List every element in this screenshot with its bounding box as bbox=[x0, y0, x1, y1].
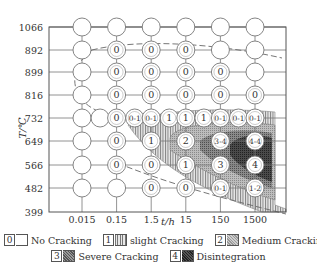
y-tick-label: 399 bbox=[25, 207, 43, 218]
legend-item-disintegration: 4Disintegration bbox=[170, 250, 266, 262]
grid-point: 1 bbox=[142, 132, 160, 150]
grid-point: 0-1 bbox=[211, 109, 229, 127]
svg-text:0: 0 bbox=[114, 89, 120, 100]
svg-text:0: 0 bbox=[148, 89, 154, 100]
legend-code: 2 bbox=[215, 234, 226, 246]
grid-point bbox=[73, 41, 91, 59]
legend-code: 4 bbox=[170, 250, 181, 262]
legend-code: 1 bbox=[103, 234, 114, 246]
grid-point bbox=[73, 156, 91, 174]
grid-point: 0 bbox=[177, 86, 195, 104]
svg-text:0-1: 0-1 bbox=[249, 114, 261, 123]
y-tick-label: 482 bbox=[25, 183, 43, 194]
x-tick-label: 150 bbox=[211, 214, 229, 225]
x-tick-label: 0.15 bbox=[106, 214, 127, 225]
legend-label: No Cracking bbox=[31, 235, 92, 246]
svg-text:0: 0 bbox=[114, 159, 120, 170]
legend-item-severe-cracking: 3Severe Cracking bbox=[51, 250, 158, 262]
grid-point bbox=[73, 18, 91, 36]
grid-point: 0 bbox=[108, 156, 126, 174]
svg-text:0: 0 bbox=[183, 44, 189, 55]
grid-point bbox=[246, 63, 264, 81]
svg-text:0: 0 bbox=[148, 66, 154, 77]
grid-point: 0 bbox=[108, 63, 126, 81]
x-tick-label: 0.015 bbox=[68, 214, 95, 225]
grid-point: 3 bbox=[211, 156, 229, 174]
legend-row-1: 0No Cracking 1slight Cracking 2Medium Cr… bbox=[0, 234, 317, 246]
legend-swatch bbox=[115, 234, 127, 246]
svg-text:0: 0 bbox=[114, 135, 120, 146]
y-axis-label: T/℃ bbox=[17, 117, 28, 138]
svg-text:0: 0 bbox=[217, 89, 223, 100]
grid-point bbox=[73, 63, 91, 81]
legend-label: Severe Cracking bbox=[78, 251, 158, 262]
svg-text:0-1: 0-1 bbox=[214, 184, 226, 193]
svg-text:1: 1 bbox=[183, 112, 189, 123]
legend-code: 0 bbox=[4, 234, 15, 246]
grid-point: 1 bbox=[177, 109, 195, 127]
grid-point: 4 bbox=[246, 156, 264, 174]
grid-point: 1-2 bbox=[246, 179, 264, 197]
legend-code: 3 bbox=[51, 250, 62, 262]
grid-point bbox=[142, 18, 160, 36]
grid-point: 0 bbox=[108, 132, 126, 150]
svg-text:0: 0 bbox=[183, 182, 189, 193]
legend-label: slight Cracking bbox=[130, 235, 204, 246]
svg-text:0-1: 0-1 bbox=[145, 114, 157, 123]
svg-text:0: 0 bbox=[114, 112, 120, 123]
legend-swatch bbox=[182, 250, 194, 262]
legend-item-slight-cracking: 1slight Cracking bbox=[103, 234, 204, 246]
grid-point bbox=[108, 179, 126, 197]
svg-text:1: 1 bbox=[166, 112, 172, 123]
legend-item-medium-cracking: 2Medium Cracking bbox=[215, 234, 317, 246]
grid-point: 0 bbox=[211, 86, 229, 104]
grid-point bbox=[91, 109, 109, 127]
grid-point: 0 bbox=[246, 86, 264, 104]
svg-text:0: 0 bbox=[183, 66, 189, 77]
legend-swatch bbox=[63, 250, 75, 262]
grid-point: 1 bbox=[177, 156, 195, 174]
grid-point: 0 bbox=[108, 41, 126, 59]
grid-point: 0 bbox=[142, 41, 160, 59]
svg-text:0: 0 bbox=[183, 89, 189, 100]
grid-point bbox=[73, 86, 91, 104]
svg-text:0-1: 0-1 bbox=[232, 114, 244, 123]
grid-point: 1 bbox=[160, 109, 178, 127]
grid-point: 0-1 bbox=[142, 109, 160, 127]
svg-text:0: 0 bbox=[148, 159, 154, 170]
x-tick-label: 15 bbox=[180, 214, 192, 225]
y-tick-label: 816 bbox=[25, 90, 43, 101]
grid-point: 0 bbox=[142, 86, 160, 104]
chart-plot: 00000000000000-10-11110-10-10-10123-44-4… bbox=[0, 0, 317, 230]
grid-point: 0 bbox=[142, 156, 160, 174]
svg-text:3: 3 bbox=[217, 159, 223, 170]
grid-point bbox=[246, 41, 264, 59]
svg-text:4: 4 bbox=[252, 159, 258, 170]
y-tick-label: 1066 bbox=[19, 22, 43, 33]
grid-point bbox=[177, 18, 195, 36]
y-tick-label: 566 bbox=[25, 160, 43, 171]
legend-swatch bbox=[16, 234, 28, 246]
svg-text:1: 1 bbox=[183, 159, 189, 170]
grid-point: 0 bbox=[177, 63, 195, 81]
grid-point: 0 bbox=[108, 86, 126, 104]
svg-text:2: 2 bbox=[183, 135, 189, 146]
svg-text:0-1: 0-1 bbox=[129, 114, 141, 123]
svg-text:3-4: 3-4 bbox=[214, 137, 226, 146]
x-tick-label: 1.5 bbox=[144, 214, 159, 225]
grid-point bbox=[246, 18, 264, 36]
grid-point bbox=[73, 179, 91, 197]
grid-point bbox=[108, 18, 126, 36]
grid-point: 0-1 bbox=[246, 109, 264, 127]
y-tick-label: 899 bbox=[25, 67, 43, 78]
legend-item-no-cracking: 0No Cracking bbox=[4, 234, 92, 246]
grid-point bbox=[73, 109, 91, 127]
grid-point: 0-1 bbox=[229, 109, 247, 127]
grid-point: 0 bbox=[177, 179, 195, 197]
svg-text:0-1: 0-1 bbox=[214, 114, 226, 123]
legend-label: Medium Cracking bbox=[242, 235, 317, 246]
svg-text:4-4: 4-4 bbox=[249, 137, 261, 146]
svg-text:0: 0 bbox=[252, 89, 258, 100]
grid-point: 2 bbox=[177, 132, 195, 150]
grid-point: 0 bbox=[108, 109, 126, 127]
